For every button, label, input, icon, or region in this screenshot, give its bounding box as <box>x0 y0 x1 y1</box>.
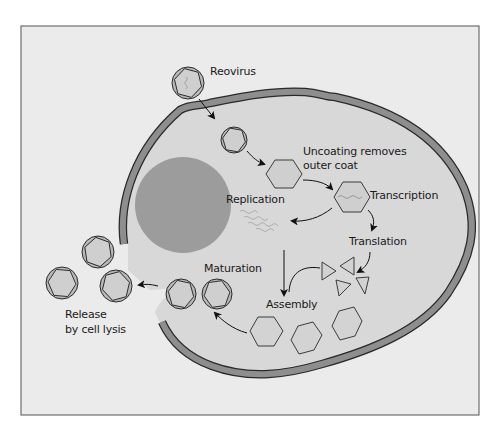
mature-virion-2 <box>202 279 232 309</box>
label-assembly: Assembly <box>266 298 318 311</box>
label-uncoating-line1: Uncoating removes <box>303 145 407 158</box>
label-maturation: Maturation <box>204 262 262 275</box>
released-virion-3 <box>99 270 133 302</box>
label-replication: Replication <box>226 193 285 206</box>
nucleus <box>135 157 231 253</box>
label-release-line1: Release <box>65 308 107 321</box>
label-transcription: Transcription <box>369 189 438 202</box>
released-virion-2 <box>46 267 78 299</box>
mature-virion-1 <box>166 279 197 309</box>
label-release-line2: by cell lysis <box>65 323 126 336</box>
reovirus-particle <box>171 67 205 99</box>
internalized-virus <box>221 127 247 153</box>
label-uncoating-line2: outer coat <box>303 159 359 172</box>
label-translation: Translation <box>348 235 407 248</box>
label-reovirus: Reovirus <box>210 65 256 78</box>
reovirus-replication-diagram: Uncoating removes outer coat Transcripti… <box>0 0 499 429</box>
